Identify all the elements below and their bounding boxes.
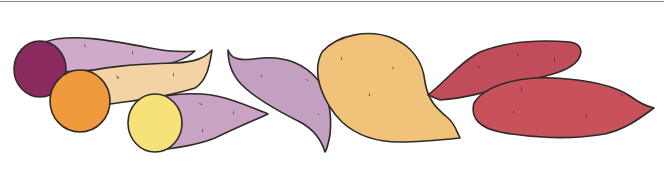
sweet-potatoes-illustration [0,0,664,184]
yellow-sweet-potato-cut [128,94,268,152]
red-sweet-potato-whole-front [473,78,654,138]
lavender-sweet-potato-whole [228,50,331,152]
